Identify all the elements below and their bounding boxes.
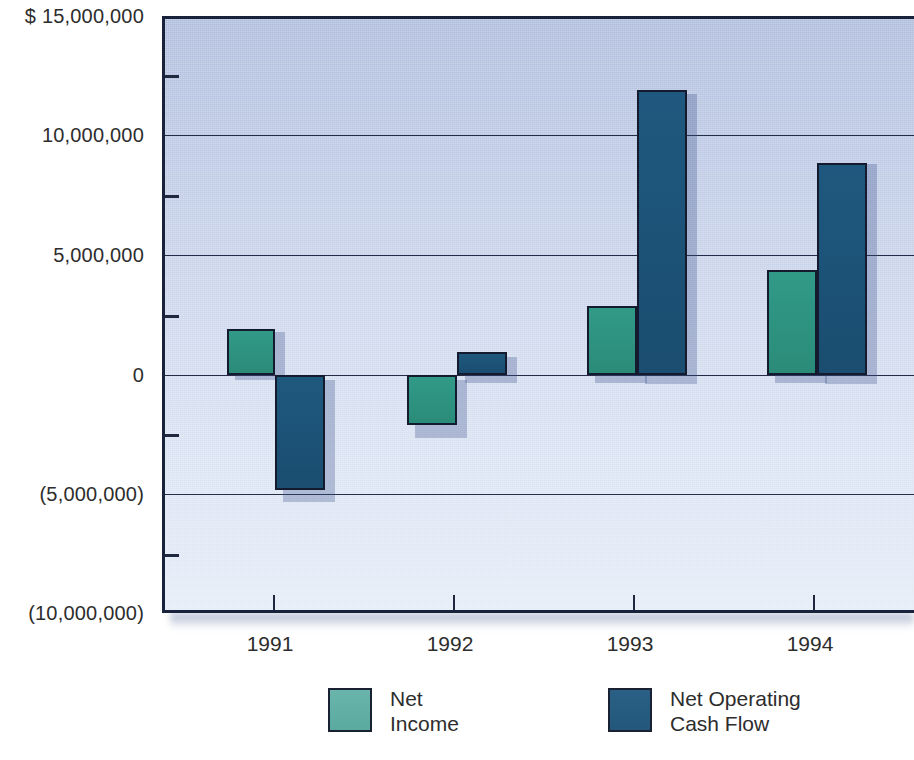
bar-net-income-1992[interactable] bbox=[407, 375, 457, 425]
minor-tick-12500000 bbox=[165, 75, 179, 78]
x-tick-1992 bbox=[453, 595, 455, 610]
legend-item-net-operating-cash-flow[interactable]: Net Operating Cash Flow bbox=[608, 686, 801, 736]
x-tick-label-1991: 1991 bbox=[210, 632, 330, 656]
legend-swatch-net-operating-cash-flow-icon bbox=[608, 688, 652, 732]
y-tick-label-5000000: 5,000,000 bbox=[2, 244, 152, 267]
gridline-10000000 bbox=[165, 135, 914, 136]
legend-label-net-operating-cash-flow: Net Operating Cash Flow bbox=[670, 686, 801, 736]
bar-net-operating-cash-flow-1993[interactable] bbox=[637, 90, 687, 375]
bar-net-income-1993[interactable] bbox=[587, 306, 637, 375]
bar-net-income-1991[interactable] bbox=[227, 329, 275, 375]
bar-chart-figure: $ 15,000,000 10,000,000 5,000,000 0 (5,0… bbox=[0, 0, 914, 760]
y-tick-label-15000000: $ 15,000,000 bbox=[2, 5, 152, 28]
x-tick-1993 bbox=[633, 595, 635, 610]
x-tick-label-1994: 1994 bbox=[750, 632, 870, 656]
minor-tick-7500000 bbox=[165, 195, 179, 198]
x-tick-label-1993: 1993 bbox=[570, 632, 690, 656]
x-tick-1994 bbox=[813, 595, 815, 610]
bar-net-operating-cash-flow-1992[interactable] bbox=[457, 352, 507, 375]
legend-label-net-income: Net Income bbox=[390, 686, 459, 736]
y-tick-label-neg10000000: (10,000,000) bbox=[2, 602, 152, 625]
chart-legend: Net Income Net Operating Cash Flow bbox=[0, 672, 914, 760]
gridline-neg5000000 bbox=[165, 494, 914, 495]
minor-tick-neg7500000 bbox=[165, 554, 179, 557]
legend-item-net-income[interactable]: Net Income bbox=[328, 686, 459, 736]
y-tick-label-0: 0 bbox=[2, 364, 152, 387]
minor-tick-2500000 bbox=[165, 315, 179, 318]
y-tick-label-neg5000000: (5,000,000) bbox=[2, 483, 152, 506]
legend-swatch-net-income-icon bbox=[328, 688, 372, 732]
bar-net-operating-cash-flow-1991[interactable] bbox=[275, 375, 325, 490]
plot-drop-shadow bbox=[170, 613, 914, 629]
plot-area bbox=[162, 16, 914, 613]
bar-net-income-1994[interactable] bbox=[767, 270, 817, 375]
gridline-5000000 bbox=[165, 255, 914, 256]
y-tick-label-10000000: 10,000,000 bbox=[2, 124, 152, 147]
x-tick-1991 bbox=[273, 595, 275, 610]
bar-net-operating-cash-flow-1994[interactable] bbox=[817, 163, 867, 375]
minor-tick-neg2500000 bbox=[165, 434, 179, 437]
x-tick-label-1992: 1992 bbox=[390, 632, 510, 656]
